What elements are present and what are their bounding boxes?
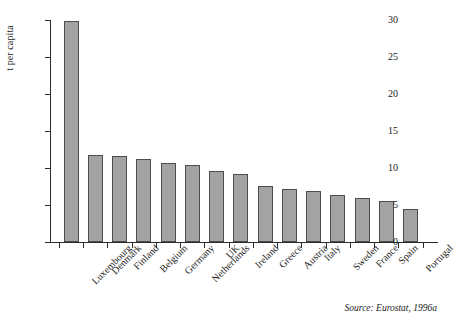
y-axis-title: t per capita <box>4 0 15 108</box>
x-tick-label: Ireland <box>253 243 280 270</box>
y-tick-label: 25 <box>374 52 398 62</box>
bar <box>112 156 127 242</box>
bar <box>355 198 370 242</box>
x-tick-label: Spain <box>397 243 420 266</box>
bar <box>185 165 200 242</box>
bar <box>282 189 297 242</box>
bar <box>88 155 103 242</box>
bar <box>330 195 345 242</box>
bar <box>209 171 224 242</box>
bar <box>64 21 79 242</box>
y-tick-label: 10 <box>374 163 398 173</box>
bar <box>161 163 176 242</box>
bar <box>233 174 248 242</box>
bar <box>136 159 151 242</box>
source-note: Source: Eurostat, 1996a <box>0 303 437 313</box>
y-tick-label: 5 <box>374 200 398 210</box>
x-tick-label: Portugal <box>424 243 455 274</box>
y-tick-label: 30 <box>374 15 398 25</box>
x-tick-label: Greece <box>277 243 304 270</box>
y-tick-label: 20 <box>374 89 398 99</box>
bar <box>306 191 321 242</box>
bar <box>258 186 273 242</box>
y-tick-label: 15 <box>374 126 398 136</box>
bar <box>403 209 418 242</box>
